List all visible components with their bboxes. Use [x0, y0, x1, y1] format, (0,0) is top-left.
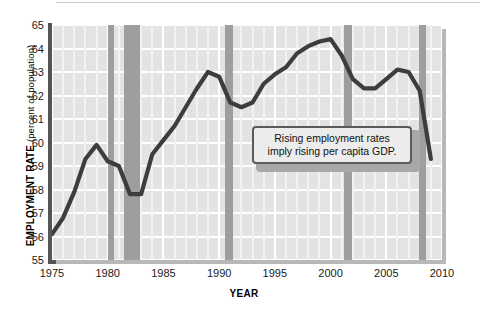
y-axis-tick-label: 55 [0, 255, 44, 266]
y-axis-tick-label: 56 [0, 232, 44, 243]
y-axis-tick-label: 61 [0, 114, 44, 125]
employment-rate-chart-figure: EMPLOYMENT RATE (percent of population) … [0, 0, 488, 315]
x-axis-tick-label: 2005 [362, 268, 410, 279]
x-axis-tick-label: 1985 [139, 268, 187, 279]
x-axis-title: YEAR [0, 288, 488, 299]
y-axis-tick-label: 63 [0, 67, 44, 78]
x-axis-tick-label: 2010 [418, 268, 466, 279]
y-axis-tick-label: 59 [0, 161, 44, 172]
x-axis-tick-label: 2000 [307, 268, 355, 279]
y-axis-tick-label: 62 [0, 91, 44, 102]
annotation-text: Rising employment rates imply rising per… [268, 132, 397, 158]
page-top-rule [56, 2, 480, 3]
x-axis-tick-label: 1990 [195, 268, 243, 279]
x-axis-tick-label: 1975 [28, 268, 76, 279]
y-axis-tick-label: 57 [0, 208, 44, 219]
annotation-line-1: Rising employment rates [274, 132, 390, 144]
y-axis-tick-label: 60 [0, 138, 44, 149]
y-axis-tick-label: 64 [0, 44, 44, 55]
y-axis-tick-label: 58 [0, 185, 44, 196]
annotation-callout: Rising employment rates imply rising per… [252, 126, 412, 164]
x-axis-tick-label: 1980 [84, 268, 132, 279]
y-axis-tick-label: 65 [0, 20, 44, 31]
annotation-line-2: imply rising per capita GDP. [268, 145, 397, 157]
x-axis-tick-label: 1995 [251, 268, 299, 279]
